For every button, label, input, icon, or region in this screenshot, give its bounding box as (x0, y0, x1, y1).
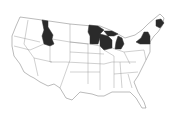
us-map-svg (0, 0, 175, 126)
us-map (0, 0, 175, 126)
